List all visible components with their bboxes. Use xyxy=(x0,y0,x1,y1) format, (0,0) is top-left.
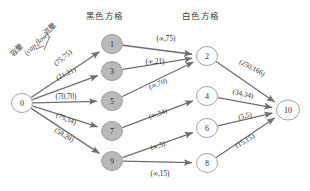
edge-0-to-5 xyxy=(33,101,97,102)
node-6[interactable]: 6 xyxy=(197,119,218,138)
node-9[interactable]: 9 xyxy=(102,152,123,171)
node-label-4: 4 xyxy=(205,92,209,101)
edge-label-5-2: (∞,70) xyxy=(148,77,169,92)
edge-label-0-5: (70,70) xyxy=(56,93,78,101)
node-2[interactable]: 2 xyxy=(197,47,218,66)
edge-label-0-9: (58,20) xyxy=(53,126,76,144)
edge-label-0-1: (75,75) xyxy=(52,48,74,68)
node-label-2: 2 xyxy=(205,52,209,61)
node-label-7: 7 xyxy=(110,127,114,136)
edge-4-to-10 xyxy=(218,98,272,108)
edge-label-8-10: (15,15) xyxy=(234,132,257,150)
node-3[interactable]: 3 xyxy=(102,62,123,81)
edge-label-6-10: (5,5) xyxy=(237,111,253,122)
node-label-5: 5 xyxy=(110,97,114,106)
node-1[interactable]: 1 xyxy=(102,35,123,54)
node-label-8: 8 xyxy=(205,159,209,168)
node-label-0: 0 xyxy=(20,99,24,108)
node-label-3: 3 xyxy=(110,67,114,76)
node-0[interactable]: 0 xyxy=(12,94,33,113)
edge-9-to-8 xyxy=(123,161,192,162)
node-8[interactable]: 8 xyxy=(197,154,218,173)
edge-label-3-2: (∞,21) xyxy=(146,58,166,66)
node-label-10: 10 xyxy=(284,106,292,115)
node-label-1: 1 xyxy=(110,40,114,49)
edge-label-9-6: (∞,5) xyxy=(149,140,167,153)
edge-label-1-2: (∞,75) xyxy=(157,35,177,43)
node-label-6: 6 xyxy=(205,124,209,133)
edge-label-0-7: (75,34) xyxy=(55,111,78,126)
node-label-9: 9 xyxy=(110,157,114,166)
graph-canvas: 013579246810 (75,75)(21,21)(70,70)(75,34… xyxy=(0,0,310,191)
network-flow-diagram: 黑色方格 白色方格 容量 流量 (cap,flow) 013579246810 … xyxy=(0,0,310,191)
node-7[interactable]: 7 xyxy=(102,122,123,141)
edge-label-0-3: (21,21) xyxy=(55,66,78,83)
node-5[interactable]: 5 xyxy=(102,92,123,111)
edge-label-7-4: (∞,34) xyxy=(148,107,169,121)
edge-label-layer: (75,75)(21,21)(70,70)(75,34)(58,20)(∞,75… xyxy=(52,35,266,178)
edge-label-4-10: (34,34) xyxy=(232,88,255,100)
node-10[interactable]: 10 xyxy=(277,100,300,120)
edge-label-9-8: (∞,15) xyxy=(151,170,171,178)
edge-label-2-10: (250,166) xyxy=(238,58,267,79)
node-4[interactable]: 4 xyxy=(197,87,218,106)
node-layer: 013579246810 xyxy=(12,35,300,173)
edge-1-to-2 xyxy=(123,45,192,54)
